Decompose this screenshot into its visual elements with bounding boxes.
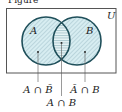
figure-caption-partial: Figure: [8, 0, 38, 5]
set-b-label: B: [85, 25, 93, 36]
label-not-a-b: Ā ∩ B: [69, 84, 99, 95]
universe-label: U: [107, 10, 116, 21]
label-a-and-b: A ∩ B: [46, 97, 76, 108]
label-a-not-b: A ∩ B̄: [22, 84, 52, 95]
set-a-label: A: [29, 25, 37, 36]
venn-diagram: Figure U A B A ∩ B̄ Ā ∩ B A ∩ B: [0, 0, 122, 112]
